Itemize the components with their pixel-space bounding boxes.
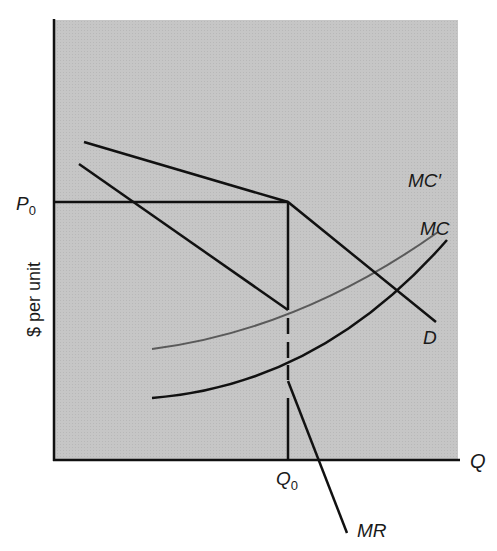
x-axis-label: Q [470,450,486,472]
plot-panel [54,20,458,460]
y-axis-label: $ per unit [24,262,44,337]
mc-label: MC [420,218,450,239]
mr-label: MR [357,520,387,541]
quantity-label: Q0 [276,468,298,493]
price-label: P0 [16,193,36,218]
demand-label: D [423,327,437,348]
kinked-demand-diagram: P0 Q0 Q $ per unit MC′ MC D MR [0,0,497,551]
mc-prime-label: MC′ [408,170,443,191]
